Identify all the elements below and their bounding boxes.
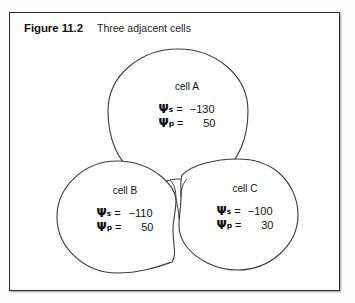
psi-p-subscript: p [107,221,112,235]
cell-c-values: Ψs=−100 Ψp=30 [216,204,273,232]
cell-a-values: Ψs=−130 Ψp=50 [158,102,215,130]
psi-icon: Ψ [96,206,106,220]
cell-c-psi-s-value: −100 [243,204,273,218]
psi-icon: Ψ [158,116,168,130]
cell-a-name: cell A [134,81,240,93]
cell-c-psi-p-value: 30 [244,218,274,232]
equals-sign: = [115,220,121,234]
psi-s-subscript: s [169,103,173,117]
cell-b-values: Ψs=−110 Ψp=50 [96,206,153,234]
cell-c-psi-p-row: Ψp=30 [216,218,273,232]
psi-s-subscript: s [107,207,111,221]
psi-icon: Ψ [158,102,168,116]
cell-b-psi-p-row: Ψp=50 [96,220,153,234]
equals-sign: = [114,206,120,220]
equals-sign: = [234,204,240,218]
cell-b-psi-s-value: −110 [123,206,153,220]
psi-icon: Ψ [96,220,106,234]
figure-frame: Figure 11.2 Three adjacent cells cell A … [9,12,340,291]
cell-b-psi-p-value: 50 [124,220,154,234]
cell-b-label-group: cell B Ψs=−110 Ψp=50 [72,185,178,235]
equals-sign: = [177,116,183,130]
cell-b-psi-s-row: Ψs=−110 [96,206,153,220]
equals-sign: = [235,218,241,232]
cell-b-name: cell B [72,185,178,197]
cell-a-psi-p-value: 50 [186,116,216,130]
cell-a-label-group: cell A Ψs=−130 Ψp=50 [134,81,240,131]
equals-sign: = [176,102,182,116]
cell-c-psi-s-row: Ψs=−100 [216,204,273,218]
psi-icon: Ψ [216,204,226,218]
cell-c-name: cell C [192,183,298,195]
psi-p-subscript: p [169,117,174,131]
figure-root: Figure 11.2 Three adjacent cells cell A … [0,0,355,303]
cell-a-psi-s-row: Ψs=−130 [158,102,215,116]
psi-p-subscript: p [227,219,232,233]
cell-a-psi-p-row: Ψp=50 [158,116,215,130]
three-adjacent-cells-diagram [10,13,341,292]
cell-c-label-group: cell C Ψs=−100 Ψp=30 [192,183,298,233]
cell-a-psi-s-value: −130 [185,102,215,116]
psi-icon: Ψ [216,218,226,232]
psi-s-subscript: s [227,205,231,219]
